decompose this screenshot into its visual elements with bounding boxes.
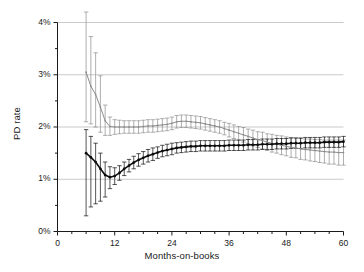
chart-plot-area (0, 0, 364, 272)
y-tick-label: 0% (27, 226, 51, 236)
x-tick-label: 48 (273, 238, 299, 248)
y-axis-title: PD rate (11, 94, 22, 154)
x-tick-label: 24 (159, 238, 185, 248)
y-tick-label: 1% (27, 173, 51, 183)
x-tick-label: 12 (102, 238, 128, 248)
y-tick-label: 4% (27, 17, 51, 27)
x-tick-label: 36 (216, 238, 242, 248)
y-tick-label: 2% (27, 121, 51, 131)
x-axis-title: Months-on-books (0, 250, 364, 261)
y-tick-label: 3% (27, 69, 51, 79)
series-markers-lower (85, 140, 345, 178)
x-tick-label: 0 (45, 238, 71, 248)
chart-figure: 0%1%2%3%4% 01224364860 PD rate Months-on… (0, 0, 364, 272)
x-tick-label: 60 (331, 238, 357, 248)
